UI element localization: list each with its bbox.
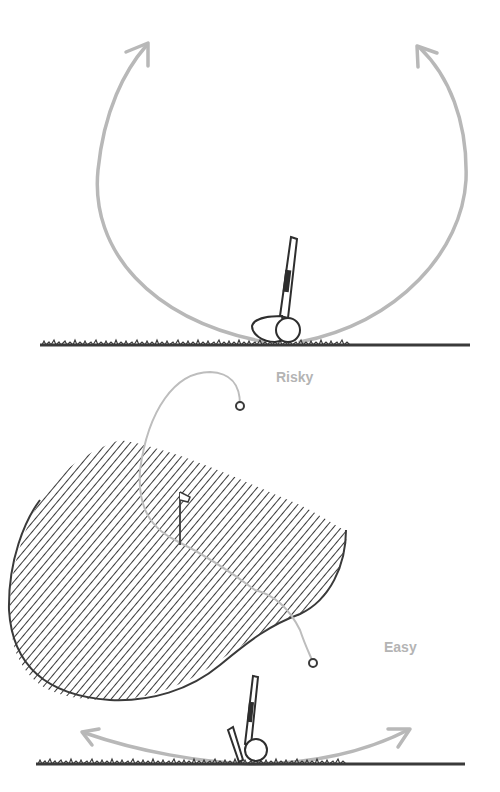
golf-diagram [0,0,500,792]
risky-landing-marker [236,402,244,410]
top-panel [40,43,470,345]
club-face [228,727,243,762]
left-arc-arrow [97,46,265,342]
hazard-hatched-area [0,420,360,720]
right-arc-arrow [300,48,466,342]
golf-ball [276,318,300,342]
golf-ball [245,739,267,761]
easy-label: Easy [384,639,417,655]
easy-landing-marker [309,659,317,667]
top-club-and-ball [252,237,300,342]
bottom-club-and-ball [228,676,267,762]
bottom-panel [0,372,465,764]
risky-label: Risky [276,369,313,385]
